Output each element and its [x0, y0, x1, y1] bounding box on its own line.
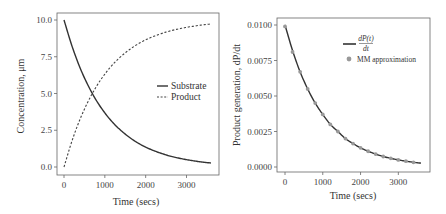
x-tick-label: 1000	[314, 177, 333, 187]
mm-marker	[291, 50, 295, 54]
mm-marker	[283, 25, 287, 29]
y-tick-label: 0.0	[41, 162, 53, 172]
left-y-ticks: 0.02.55.07.510.0	[36, 15, 57, 172]
left-x-ticks: 0100020003000	[62, 175, 196, 190]
y-tick-label: 0.0000	[247, 162, 272, 172]
left-x-axis-label: Time (secs)	[113, 196, 160, 208]
x-tick-label: 0	[283, 177, 288, 187]
mm-marker	[374, 152, 378, 156]
x-tick-label: 2000	[137, 180, 156, 190]
mm-marker	[359, 146, 363, 150]
x-tick-label: 0	[62, 180, 67, 190]
mm-marker	[366, 149, 370, 153]
mm-marker	[344, 137, 348, 141]
y-tick-label: 5.0	[41, 89, 53, 99]
derivative-legend-denominator: dt	[363, 44, 370, 53]
y-tick-label: 0.0075	[247, 56, 272, 66]
mm-approximation-markers	[283, 25, 415, 165]
mm-legend-label: MM approximation	[357, 55, 416, 64]
right-legend: dP(t) dt MM approximation	[343, 34, 416, 64]
mm-marker	[389, 156, 393, 160]
right-plot-frame	[277, 18, 430, 172]
x-tick-label: 2000	[352, 177, 371, 187]
y-tick-label: 7.5	[41, 52, 53, 62]
mm-marker	[336, 130, 340, 134]
x-tick-label: 3000	[178, 180, 197, 190]
left-legend: Substrate Product	[157, 81, 206, 102]
right-y-ticks: 0.00000.00250.00500.00750.0100	[247, 20, 277, 172]
mm-marker	[381, 155, 385, 159]
mm-marker	[351, 142, 355, 146]
mm-marker	[298, 70, 302, 74]
mm-marker	[328, 123, 332, 127]
right-chart: 0.00000.00250.00500.00750.0100 010002000…	[231, 18, 430, 202]
right-x-ticks: 0100020003000	[283, 172, 408, 187]
figure: 0.02.55.07.510.0 0100020003000 Substrate…	[0, 0, 446, 214]
mm-marker	[396, 158, 400, 162]
substrate-legend-label: Substrate	[171, 81, 206, 91]
mm-marker	[306, 87, 310, 91]
x-tick-label: 3000	[389, 177, 408, 187]
derivative-legend-numerator: dP(t)	[358, 34, 374, 43]
right-y-axis-label: Product generation, dP/dt	[231, 44, 242, 146]
mm-legend-marker	[347, 57, 352, 62]
right-x-axis-label: Time (secs)	[330, 190, 377, 202]
left-y-axis-label: Concentration, μm	[15, 58, 26, 133]
y-tick-label: 0.0050	[247, 91, 272, 101]
mm-marker	[404, 159, 408, 163]
mm-marker	[313, 101, 317, 105]
y-tick-label: 0.0025	[247, 127, 272, 137]
y-tick-label: 2.5	[41, 125, 53, 135]
mm-marker	[321, 113, 325, 117]
product-legend-label: Product	[171, 92, 201, 102]
y-tick-label: 10.0	[36, 15, 52, 25]
y-tick-label: 0.0100	[247, 20, 272, 30]
mm-marker	[412, 160, 416, 164]
left-chart: 0.02.55.07.510.0 0100020003000 Substrate…	[15, 13, 219, 208]
x-tick-label: 1000	[96, 180, 115, 190]
